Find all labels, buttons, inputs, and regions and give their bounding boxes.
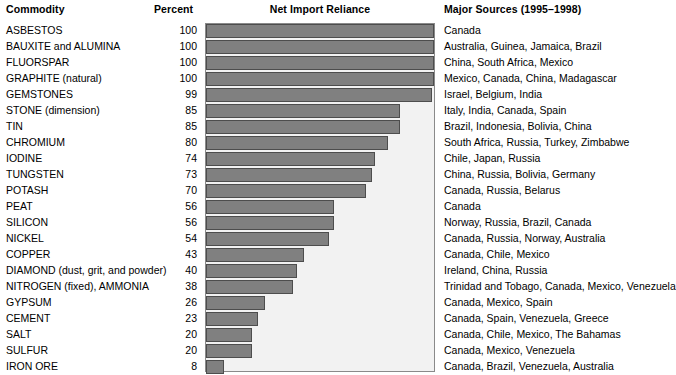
percent-value: 100 <box>120 40 197 53</box>
table-row: SILICON56Norway, Russia, Brazil, Canada <box>0 215 670 231</box>
bar-track <box>206 71 434 87</box>
commodity-label: TIN <box>6 120 23 133</box>
percent-value: 38 <box>120 280 197 293</box>
percent-value: 20 <box>120 328 197 341</box>
bar <box>206 120 400 134</box>
commodity-label: BAUXITE and ALUMINA <box>6 40 120 53</box>
bar <box>206 216 334 230</box>
percent-value: 43 <box>120 248 197 261</box>
bar <box>206 312 258 326</box>
bar-track <box>206 279 434 295</box>
bar <box>206 344 252 358</box>
table-row: STONE (dimension)85Italy, India, Canada,… <box>0 103 670 119</box>
commodity-label: GRAPHITE (natural) <box>6 72 102 85</box>
commodity-label: GEMSTONES <box>6 88 73 101</box>
table-row: NITROGEN (fixed), AMMONIA38Trinidad and … <box>0 279 670 295</box>
bar-track <box>206 103 434 119</box>
commodity-label: COPPER <box>6 248 50 261</box>
bar-track <box>206 311 434 327</box>
commodity-label: POTASH <box>6 184 48 197</box>
table-row: SALT20Canada, Chile, Mexico, The Bahamas <box>0 327 670 343</box>
bar <box>206 296 265 310</box>
bar-track <box>206 295 434 311</box>
major-sources-label: Canada, Mexico, Venezuela <box>444 344 575 357</box>
table-row: CHROMIUM80South Africa, Russia, Turkey, … <box>0 135 670 151</box>
chart-title: Net Import Reliance <box>205 3 435 15</box>
major-sources-label: Canada, Chile, Mexico, The Bahamas <box>444 328 621 341</box>
commodity-label: TUNGSTEN <box>6 168 64 181</box>
commodity-label: PEAT <box>6 200 33 213</box>
bar <box>206 88 432 102</box>
bar-track <box>206 55 434 71</box>
bar-track <box>206 215 434 231</box>
major-sources-label: Israel, Belgium, India <box>444 88 542 101</box>
major-sources-label: Italy, India, Canada, Spain <box>444 104 566 117</box>
table-row: DIAMOND (dust, grit, and powder)40Irelan… <box>0 263 670 279</box>
percent-value: 80 <box>120 136 197 149</box>
commodity-label: IRON ORE <box>6 360 58 373</box>
percent-value: 8 <box>120 360 197 373</box>
major-sources-label: Norway, Russia, Brazil, Canada <box>444 216 591 229</box>
bar-track <box>206 87 434 103</box>
commodity-label: CHROMIUM <box>6 136 65 149</box>
bar-track <box>206 263 434 279</box>
percent-value: 85 <box>120 120 197 133</box>
commodity-label: SULFUR <box>6 344 48 357</box>
percent-value: 85 <box>120 104 197 117</box>
bar <box>206 104 400 118</box>
commodity-label: NICKEL <box>6 232 44 245</box>
commodity-label: IODINE <box>6 152 42 165</box>
table-body: ASBESTOS100CanadaBAUXITE and ALUMINA100A… <box>0 23 670 375</box>
bar-track <box>206 231 434 247</box>
percent-value: 56 <box>120 200 197 213</box>
bar-track <box>206 247 434 263</box>
bar <box>206 200 334 214</box>
percent-value: 26 <box>120 296 197 309</box>
percent-value: 99 <box>120 88 197 101</box>
column-header-commodity: Commodity <box>6 3 65 15</box>
table-row: SULFUR20Canada, Mexico, Venezuela <box>0 343 670 359</box>
bar-track <box>206 199 434 215</box>
major-sources-label: Canada, Spain, Venezuela, Greece <box>444 312 609 325</box>
major-sources-label: Canada, Chile, Mexico <box>444 248 550 261</box>
bar <box>206 360 224 374</box>
bar <box>206 56 434 70</box>
percent-value: 56 <box>120 216 197 229</box>
bar <box>206 152 375 166</box>
major-sources-label: Mexico, Canada, China, Madagascar <box>444 72 617 85</box>
percent-value: 100 <box>120 56 197 69</box>
percent-value: 74 <box>120 152 197 165</box>
bar-track <box>206 135 434 151</box>
major-sources-label: Canada <box>444 24 481 37</box>
major-sources-label: Canada, Brazil, Venezuela, Australia <box>444 360 614 373</box>
column-header-major-sources: Major Sources (1995–1998) <box>444 3 581 15</box>
major-sources-label: Brazil, Indonesia, Bolivia, China <box>444 120 592 133</box>
bar <box>206 264 297 278</box>
major-sources-label: Canada <box>444 200 481 213</box>
table-row: NICKEL54Canada, Russia, Norway, Australi… <box>0 231 670 247</box>
bar <box>206 168 372 182</box>
commodity-label: SILICON <box>6 216 48 229</box>
table-row: TUNGSTEN73China, Russia, Bolivia, German… <box>0 167 670 183</box>
commodity-label: ASBESTOS <box>6 24 62 37</box>
table-row: GEMSTONES99Israel, Belgium, India <box>0 87 670 103</box>
bar <box>206 280 293 294</box>
major-sources-label: Canada, Russia, Norway, Australia <box>444 232 605 245</box>
bar-track <box>206 327 434 343</box>
table-row: POTASH70Canada, Russia, Belarus <box>0 183 670 199</box>
major-sources-label: Australia, Guinea, Jamaica, Brazil <box>444 40 602 53</box>
bar-track <box>206 151 434 167</box>
table-row: GYPSUM26Canada, Mexico, Spain <box>0 295 670 311</box>
bar <box>206 40 434 54</box>
bar <box>206 72 434 86</box>
percent-value: 40 <box>120 264 197 277</box>
major-sources-label: Ireland, China, Russia <box>444 264 547 277</box>
percent-value: 100 <box>120 72 197 85</box>
percent-value: 100 <box>120 24 197 37</box>
bar-track <box>206 23 434 39</box>
bar-track <box>206 167 434 183</box>
major-sources-label: Canada, Russia, Belarus <box>444 184 560 197</box>
bar <box>206 328 252 342</box>
percent-value: 20 <box>120 344 197 357</box>
